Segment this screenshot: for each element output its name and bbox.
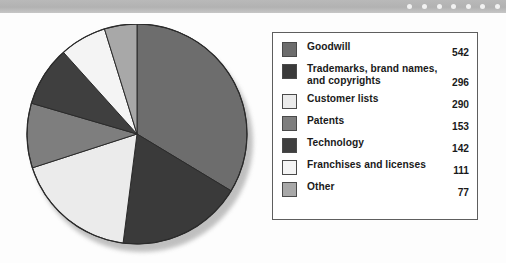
legend-row: Customer lists290 [282, 93, 469, 110]
legend-color-swatch [282, 94, 297, 109]
pie-chart [25, 24, 249, 248]
legend-label: Franchises and licenses [297, 159, 447, 171]
legend-color-swatch [282, 182, 297, 197]
legend-value: 153 [447, 121, 469, 132]
legend-row: Patents153 [282, 115, 469, 132]
legend-label: Trademarks, brand names, and copyrights [297, 63, 447, 88]
legend-value: 542 [447, 47, 469, 58]
pie-chart-svg [25, 24, 249, 248]
legend-row: Goodwill542 [282, 41, 469, 58]
legend-color-swatch [282, 160, 297, 175]
legend-color-swatch [282, 42, 297, 57]
legend-label: Other [297, 181, 447, 193]
legend-row: Technology142 [282, 137, 469, 154]
band-dot-icon [466, 4, 471, 9]
legend-label: Goodwill [297, 41, 447, 53]
band-dot-icon [422, 4, 427, 9]
legend-label: Technology [297, 137, 447, 149]
band-dot-icon [437, 4, 442, 9]
legend-panel: Goodwill542Trademarks, brand names, and … [272, 32, 478, 220]
legend-list: Goodwill542Trademarks, brand names, and … [282, 41, 469, 213]
band-dot-icon [407, 4, 412, 9]
legend-label: Patents [297, 115, 447, 127]
legend-value: 290 [447, 99, 469, 110]
legend-row: Trademarks, brand names, and copyrights2… [282, 63, 469, 88]
legend-value: 111 [447, 165, 469, 176]
legend-color-swatch [282, 138, 297, 153]
top-decorative-band [0, 0, 506, 13]
legend-row: Franchises and licenses111 [282, 159, 469, 176]
legend-label: Customer lists [297, 93, 447, 105]
legend-color-swatch [282, 64, 297, 79]
band-dot-icon [480, 4, 485, 9]
band-dot-icon [451, 4, 456, 9]
band-dot-icon [495, 4, 500, 9]
band-dot-group [407, 0, 503, 13]
legend-value: 296 [447, 77, 469, 88]
legend-value: 142 [447, 143, 469, 154]
screenshot-root: Goodwill542Trademarks, brand names, and … [0, 0, 506, 263]
legend-value: 77 [447, 187, 469, 198]
legend-row: Other77 [282, 181, 469, 198]
legend-color-swatch [282, 116, 297, 131]
